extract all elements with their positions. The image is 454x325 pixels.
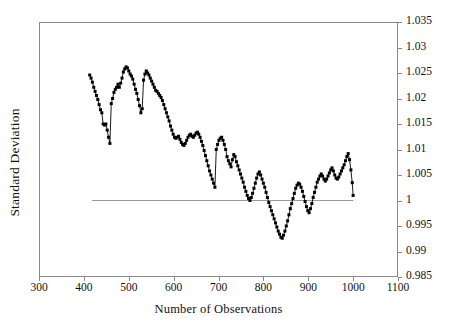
data-point [250, 196, 253, 199]
data-point [116, 83, 119, 86]
x-tick-label: 400 [64, 281, 104, 293]
data-point [300, 186, 303, 189]
data-point [281, 237, 284, 240]
data-point [224, 148, 227, 151]
data-point [223, 143, 226, 146]
data-point [216, 143, 219, 146]
chart-container: Standard Deviation Number of Observation… [0, 0, 454, 325]
data-point [274, 221, 277, 224]
data-point [160, 96, 163, 99]
y-tick-mark [398, 226, 402, 227]
data-point [291, 197, 294, 200]
data-point [285, 225, 288, 228]
y-tick-label: 0.985 [406, 269, 452, 281]
x-tick-mark [84, 277, 85, 281]
data-point [248, 199, 251, 202]
y-tick-label: 1.005 [406, 167, 452, 179]
data-point [339, 172, 342, 175]
data-point [141, 107, 144, 110]
data-point [235, 160, 238, 163]
data-point [258, 170, 261, 173]
data-point [147, 74, 150, 77]
data-point [351, 181, 354, 184]
y-tick-mark [398, 175, 402, 176]
data-point [259, 174, 262, 177]
data-point [270, 209, 273, 212]
data-point [266, 196, 269, 199]
data-point [91, 81, 94, 84]
data-point [185, 139, 188, 142]
data-point [130, 75, 133, 78]
data-point [204, 154, 207, 157]
data-point [108, 142, 111, 145]
data-point [119, 82, 122, 85]
data-point [261, 178, 264, 181]
data-point [221, 139, 224, 142]
y-tick-label: 1.025 [406, 65, 452, 77]
data-point [325, 178, 328, 181]
data-point [165, 111, 168, 114]
data-point [134, 88, 137, 91]
y-tick-label: 0.995 [406, 218, 452, 230]
data-point [137, 98, 140, 101]
data-point [310, 202, 313, 205]
data-point [169, 125, 172, 128]
x-tick-mark [353, 277, 354, 281]
y-tick-label: 1.03 [406, 40, 452, 52]
data-point [177, 135, 180, 138]
data-point [88, 74, 91, 77]
data-point [200, 140, 203, 143]
y-tick-mark [398, 48, 402, 49]
data-point [345, 155, 348, 158]
data-point [298, 183, 301, 186]
data-point [273, 217, 276, 220]
data-point [142, 79, 145, 82]
data-point [164, 107, 167, 110]
data-point [301, 190, 304, 193]
data-point [313, 191, 316, 194]
data-point [104, 123, 107, 126]
y-tick-label: 0.99 [406, 244, 452, 256]
data-point [341, 166, 344, 169]
data-point [312, 196, 315, 199]
x-tick-mark [129, 277, 130, 281]
y-tick-mark [398, 252, 402, 253]
data-point [251, 192, 254, 195]
data-point [199, 136, 202, 139]
data-point [118, 86, 121, 89]
series-polyline [90, 67, 353, 238]
y-tick-mark [398, 201, 402, 202]
data-point [236, 164, 239, 167]
data-point [94, 90, 97, 93]
data-point [289, 207, 292, 210]
data-point [99, 108, 102, 111]
data-point [333, 174, 336, 177]
data-point [294, 187, 297, 190]
x-tick-mark [39, 277, 40, 281]
data-point [271, 213, 274, 216]
data-point [197, 133, 200, 136]
data-point [308, 211, 311, 214]
data-point [282, 234, 285, 237]
data-point [283, 230, 286, 233]
data-point [290, 202, 293, 205]
data-point [254, 182, 257, 185]
data-point [149, 77, 152, 80]
data-point [347, 152, 350, 155]
data-point [262, 182, 265, 185]
x-tick-mark [308, 277, 309, 281]
x-tick-label: 500 [109, 281, 149, 293]
data-point [127, 69, 130, 72]
data-point [317, 178, 320, 181]
data-point [340, 169, 343, 172]
data-point [168, 119, 171, 122]
data-point [107, 136, 110, 139]
data-line [90, 67, 353, 238]
data-markers [88, 65, 354, 239]
data-point [215, 148, 218, 151]
x-tick-label: 300 [19, 281, 59, 293]
y-tick-label: 1.015 [406, 116, 452, 128]
x-axis-title: Number of Observations [39, 302, 398, 317]
data-point [269, 205, 272, 208]
data-point [287, 213, 290, 216]
